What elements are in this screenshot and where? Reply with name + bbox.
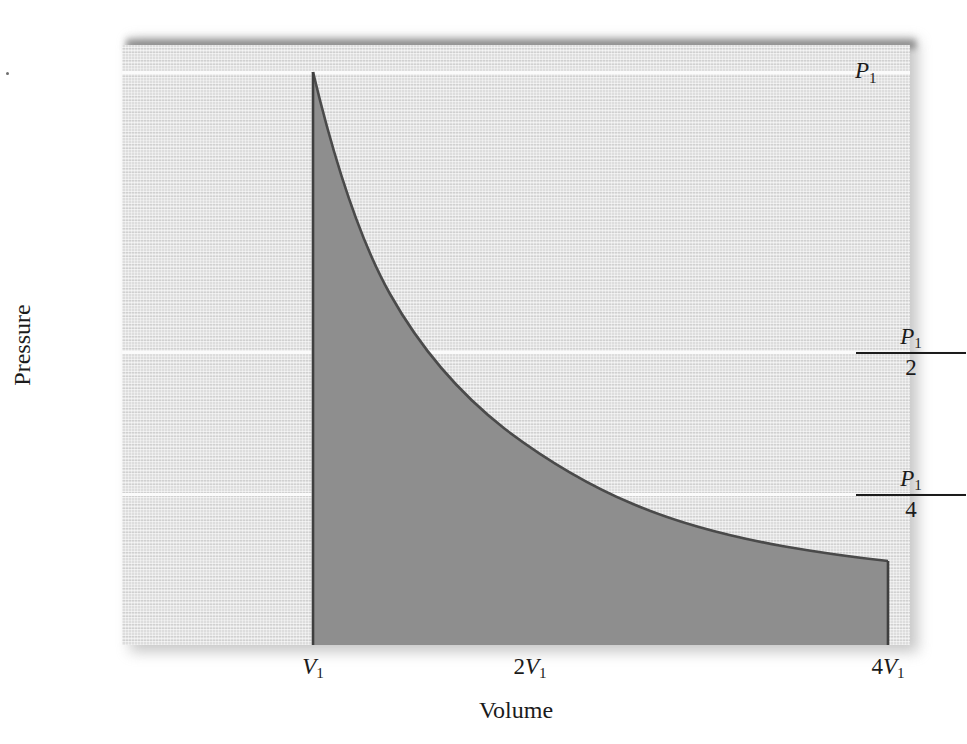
x-tick-2v1-prefix: 2 [513, 654, 525, 679]
x-tick-v1-sub: 1 [316, 664, 324, 681]
x-tick-v1-var: V [302, 654, 316, 679]
y-tick-p1-over-2-sub: 1 [914, 334, 922, 351]
x-axis-title: Volume [479, 697, 553, 724]
y-axis-title: Pressure [9, 304, 36, 385]
shaded-work-area [313, 72, 888, 645]
plot-area [122, 45, 910, 645]
x-tick-2v1: 2V1 [513, 655, 546, 680]
y-tick-p1-over-2-var: P [900, 324, 914, 349]
y-tick-p1-over-2-numerator: P1 [855, 325, 967, 352]
y-tick-p1: P1 [855, 59, 967, 84]
x-tick-2v1-sub: 1 [539, 664, 547, 681]
x-tick-2v1-var: V [525, 654, 539, 679]
x-tick-4v1-sub: 1 [897, 664, 905, 681]
y-tick-p1-over-2-denominator: 2 [855, 354, 967, 379]
pressure-volume-figure: P1 P1 2 P1 4 V1 2V1 4V1 Pressure Volume [0, 0, 967, 744]
y-tick-p1-over-4-var: P [900, 466, 914, 491]
y-tick-p1-over-4-sub: 1 [914, 476, 922, 493]
x-tick-v1: V1 [302, 655, 324, 680]
x-tick-4v1: 4V1 [871, 655, 904, 680]
isotherm-curve-svg [122, 45, 910, 645]
y-tick-p1-over-4-denominator: 4 [855, 496, 967, 521]
ink-speck [6, 72, 9, 75]
y-tick-p1-var: P [855, 58, 869, 83]
x-tick-4v1-var: V [883, 654, 897, 679]
y-tick-p1-over-2: P1 2 [855, 325, 967, 379]
x-tick-4v1-prefix: 4 [871, 654, 883, 679]
y-tick-p1-sub: 1 [869, 69, 877, 86]
y-tick-p1-over-4-numerator: P1 [855, 467, 967, 494]
y-tick-p1-over-4: P1 4 [855, 467, 967, 521]
